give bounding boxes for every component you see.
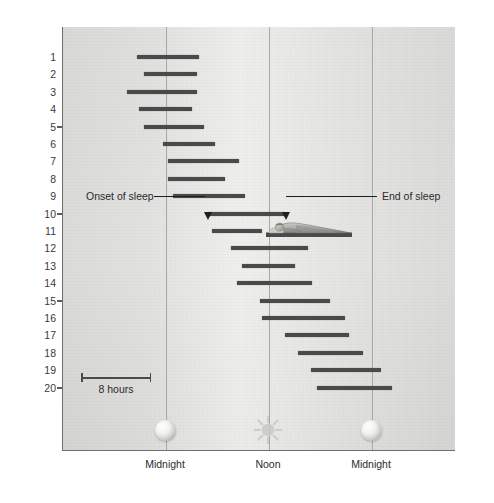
y-tick-label-20: 20: [30, 383, 56, 394]
y-tick-label-12: 12: [30, 243, 56, 254]
y-tick-label-16: 16: [30, 313, 56, 324]
sleep-bar-day-2: [144, 72, 197, 76]
sleep-bar-day-19: [311, 368, 381, 372]
sleep-bar-day-18: [298, 351, 362, 355]
sleep-bar-day-14: [237, 281, 312, 285]
x-tick-label-midnight-1: Midnight: [125, 458, 205, 470]
sleep-bar-day-16: [262, 316, 345, 320]
y-tick-label-5: 5: [30, 122, 56, 133]
x-tick-label-noon: Noon: [228, 458, 308, 470]
y-tick-label-3: 3: [30, 87, 56, 98]
end-of-sleep-label: End of sleep: [382, 190, 440, 202]
sleep-bar-day-3: [127, 90, 197, 94]
sleep-bar-day-10: [208, 212, 286, 216]
sleep-bar-day-7: [168, 159, 239, 163]
y-tick-label-17: 17: [30, 330, 56, 341]
sleep-bar-day-6: [163, 142, 215, 146]
x-tick-label-midnight-2: Midnight: [331, 458, 411, 470]
sleep-bar-day-15: [260, 299, 330, 303]
y-tick-label-6: 6: [30, 139, 56, 150]
y-tick-label-14: 14: [30, 278, 56, 289]
sun-icon-noon: [253, 415, 283, 445]
y-tick-label-2: 2: [30, 69, 56, 80]
actogram-figure: Days Spent in Continuously Light Environ…: [0, 0, 494, 503]
y-tick-label-18: 18: [30, 348, 56, 359]
y-tick-label-8: 8: [30, 174, 56, 185]
sleep-bar-day-8: [168, 177, 226, 181]
y-tick-label-19: 19: [30, 365, 56, 376]
scale-bar-cap-left: [81, 373, 83, 382]
y-tick-label-1: 1: [30, 52, 56, 63]
gridline-noon: [269, 27, 270, 450]
sleep-bar-day-20: [317, 386, 392, 390]
sleep-bar-day-11: [212, 229, 262, 233]
y-tick-label-10: 10: [30, 209, 56, 220]
scale-bar-rule: [81, 377, 151, 379]
end-of-sleep-arrow: [282, 212, 290, 220]
sleep-bar-day-13: [242, 264, 294, 268]
y-tick-label-11: 11: [30, 226, 56, 237]
sleep-bar-day-12: [231, 246, 308, 250]
sleeping-person-icon: [266, 218, 352, 237]
y-tick-label-4: 4: [30, 104, 56, 115]
scale-bar: 8 hours: [81, 377, 151, 399]
scale-bar-label: 8 hours: [81, 383, 151, 395]
y-tick-label-13: 13: [30, 261, 56, 272]
y-tick-label-9: 9: [30, 191, 56, 202]
moon-icon-midnight-1: [155, 420, 176, 441]
sleep-bar-day-17: [285, 333, 349, 337]
end-of-sleep-leader: [286, 196, 377, 197]
moon-icon-midnight-2: [361, 420, 382, 441]
sleep-bar-day-4: [139, 107, 191, 111]
scale-bar-cap-right: [150, 373, 152, 382]
sleep-bar-day-5: [144, 125, 204, 129]
onset-of-sleep-leader: [154, 196, 205, 197]
onset-of-sleep-label: Onset of sleep: [86, 190, 154, 202]
y-tick-label-7: 7: [30, 156, 56, 167]
y-tick-label-15: 15: [30, 296, 56, 307]
onset-of-sleep-arrow: [204, 212, 212, 220]
sleep-bar-day-1: [137, 55, 199, 59]
